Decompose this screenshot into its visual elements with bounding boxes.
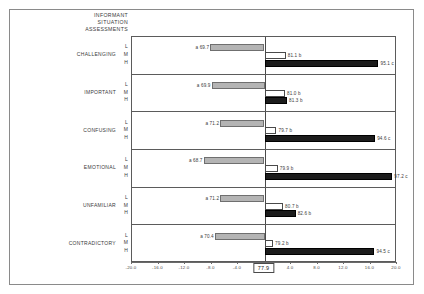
x-axis-tick-label: 8.0 (313, 265, 320, 270)
level-letter: M (112, 202, 128, 210)
bar-value-label: 94.6 c (377, 135, 390, 142)
chart-bar (265, 248, 375, 255)
level-letter: M (112, 164, 128, 172)
level-letter: L (112, 81, 128, 89)
x-axis-tick-label: -12.0 (178, 265, 189, 270)
chart-figure: INFORMANT SITUATION ASSESSMENTS a 69.781… (0, 0, 424, 294)
level-letter: L (112, 119, 128, 127)
level-letter: H (112, 209, 128, 217)
x-axis-tick-label: 20.0 (391, 265, 400, 270)
chart-bar (265, 173, 393, 180)
chart-bar (265, 127, 277, 134)
bar-value-label: 81.1 b (288, 52, 302, 59)
chart-bar (265, 203, 284, 210)
level-letter: M (112, 51, 128, 59)
chart-title: INFORMANT SITUATION ASSESSMENTS (28, 12, 128, 34)
x-axis-tick (343, 262, 344, 264)
level-letter: L (112, 232, 128, 240)
level-letters: LMH (112, 194, 128, 217)
chart-bar (265, 165, 278, 172)
chart-group-panel (132, 37, 395, 75)
x-axis-tick-label: 12.0 (338, 265, 347, 270)
x-axis-tick (237, 262, 238, 264)
level-letter: H (112, 172, 128, 180)
bar-value-label: 79.7 b (278, 127, 292, 134)
chart-bar (265, 210, 296, 217)
chart-group-panel (132, 150, 395, 188)
level-letter: M (112, 89, 128, 97)
level-letter: L (112, 156, 128, 164)
chart-bar (265, 90, 286, 97)
chart-bar (265, 135, 376, 142)
chart-bar (204, 157, 265, 164)
chart-title-line-2: SITUATION (28, 19, 128, 26)
x-axis-tick (370, 262, 371, 264)
chart-bar (220, 195, 264, 202)
chart-title-line-1: INFORMANT (28, 12, 128, 19)
bar-value-label: a 68.7 (189, 157, 203, 164)
x-axis-tick (131, 262, 132, 264)
bar-value-label: 82.6 b (298, 210, 312, 217)
chart-bar (210, 44, 264, 51)
chart-bar (212, 82, 265, 89)
x-axis-tick-label: 16.0 (365, 265, 374, 270)
bar-value-label: a 69.9 (197, 82, 211, 89)
bar-value-label: a 70.4 (200, 233, 214, 240)
chart-bar (220, 120, 264, 127)
bar-value-label: 79.2 b (275, 240, 289, 247)
level-letter: M (112, 239, 128, 247)
level-letters: LMH (112, 232, 128, 255)
level-letters: LMH (112, 81, 128, 104)
category-label: CHALLENGING (14, 51, 116, 57)
level-letters: LMH (112, 43, 128, 66)
level-letter: H (112, 134, 128, 142)
bar-value-label: 94.5 c (376, 248, 389, 255)
plot-area: a 69.781.1 b95.1 ca 69.981.0 b81.3 ba 71… (131, 36, 396, 262)
level-letter: H (112, 247, 128, 255)
category-label: EMOTIONAL (14, 164, 116, 170)
bar-value-label: 79.9 b (280, 165, 294, 172)
chart-bar (265, 240, 274, 247)
x-axis-tick (290, 262, 291, 264)
bar-value-label: 80.7 b (285, 203, 299, 210)
category-label: CONFUSING (14, 127, 116, 133)
bar-value-label: 81.0 b (287, 90, 301, 97)
bar-value-label: a 71.2 (205, 120, 219, 127)
level-letters: LMH (112, 119, 128, 142)
chart-bar (215, 233, 265, 240)
x-axis-tick (396, 262, 397, 264)
bar-value-label: 95.1 c (380, 60, 393, 67)
chart-bar (265, 52, 286, 59)
center-value-box: 77.9 (253, 263, 274, 273)
bar-value-label: 81.3 b (289, 97, 303, 104)
chart-group-panel (132, 112, 395, 150)
category-label: UNFAMILIAR (14, 202, 116, 208)
chart-group-panel (132, 225, 395, 263)
x-axis: -20.0-16.0-12.0-8.0-4.04.08.012.016.020.… (131, 262, 396, 284)
level-letter: L (112, 43, 128, 51)
x-axis-tick-label: -20.0 (125, 265, 136, 270)
chart-title-line-3: ASSESSMENTS (28, 26, 128, 33)
bar-value-label: a 71.2 (205, 195, 219, 202)
x-axis-tick (317, 262, 318, 264)
level-letters: LMH (112, 156, 128, 179)
x-axis-tick-label: -16.0 (152, 265, 163, 270)
chart-bar (265, 60, 379, 67)
x-axis-tick (211, 262, 212, 264)
bar-value-label: 97.2 c (394, 173, 407, 180)
x-axis-tick-label: -4.0 (233, 265, 241, 270)
level-letter: M (112, 126, 128, 134)
level-letter: H (112, 96, 128, 104)
x-axis-tick (158, 262, 159, 264)
category-label: IMPORTANT (14, 89, 116, 95)
x-axis-tick-label: 4.0 (287, 265, 294, 270)
level-letter: H (112, 59, 128, 67)
bar-value-label: a 69.7 (196, 44, 210, 51)
x-axis-tick-label: -8.0 (206, 265, 214, 270)
chart-group-panel (132, 75, 395, 113)
chart-bar (265, 97, 288, 104)
x-axis-tick (184, 262, 185, 264)
category-label: CONTRADICTORY (14, 240, 116, 246)
level-letter: L (112, 194, 128, 202)
chart-group-panel (132, 188, 395, 226)
